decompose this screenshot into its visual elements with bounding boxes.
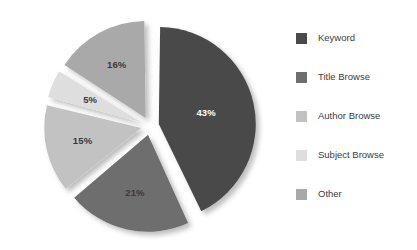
pie-slice-data-label: 43% <box>196 107 216 118</box>
legend-item[interactable]: Title Browse <box>296 70 414 84</box>
legend-item-label: Title Browse <box>318 72 370 82</box>
chart-legend: KeywordTitle BrowseAuthor BrowseSubject … <box>296 31 414 201</box>
pie-svg: 43%21%15%5%16% <box>0 0 280 250</box>
pie-plot-area: 43%21%15%5%16% <box>0 0 280 250</box>
legend-item-label: Author Browse <box>318 111 380 121</box>
pie-slice[interactable] <box>159 27 256 211</box>
legend-item[interactable]: Author Browse <box>296 109 414 123</box>
legend-color-swatch <box>296 111 307 122</box>
pie-slice-data-label: 16% <box>107 59 127 70</box>
legend-color-swatch <box>296 72 307 83</box>
legend-item[interactable]: Subject Browse <box>296 148 414 162</box>
pie-slice-data-label: 15% <box>73 135 93 146</box>
pie-slice-data-label: 5% <box>83 94 97 105</box>
legend-color-swatch <box>296 33 307 44</box>
legend-item-label: Keyword <box>318 33 355 43</box>
legend-item[interactable]: Other <box>296 187 414 201</box>
legend-color-swatch <box>296 189 307 200</box>
legend-item-label: Subject Browse <box>318 150 384 160</box>
pie-slices-group <box>44 21 256 232</box>
pie-chart-figure: 43%21%15%5%16% KeywordTitle BrowseAuthor… <box>0 0 417 250</box>
legend-item[interactable]: Keyword <box>296 31 414 45</box>
legend-item-label: Other <box>318 189 342 199</box>
legend-color-swatch <box>296 150 307 161</box>
pie-slice-data-label: 21% <box>125 187 145 198</box>
